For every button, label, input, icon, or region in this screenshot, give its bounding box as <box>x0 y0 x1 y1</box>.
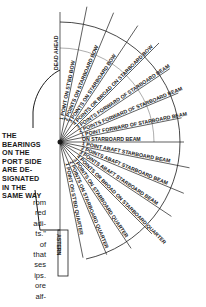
text-line: ips. <box>0 271 46 281</box>
bearing-labels: DEAD AHEAD1 POINT ON ST'BD BOW2 POINTS O… <box>53 35 187 255</box>
text-line: rom <box>0 198 46 208</box>
text-line: ore <box>0 281 46 291</box>
port-side-note: THE BEARINGS ON THE PORT SIDE ARE DE- SI… <box>2 132 60 201</box>
bearing-label: ASTERN <box>56 234 62 256</box>
text-line: of <box>0 240 46 250</box>
text-line: ses <box>0 260 46 270</box>
bearing-label: DEAD AHEAD <box>53 35 59 70</box>
text-line: ts." <box>0 229 46 239</box>
body-text-fragment: rom red adi- ts." of that ses ips. ore a… <box>0 198 46 302</box>
ship-hull-outline <box>33 70 60 112</box>
text-line: alf- <box>0 292 46 302</box>
text-line: red <box>0 208 46 218</box>
text-line: that <box>0 250 46 260</box>
text-line: adi- <box>0 219 46 229</box>
